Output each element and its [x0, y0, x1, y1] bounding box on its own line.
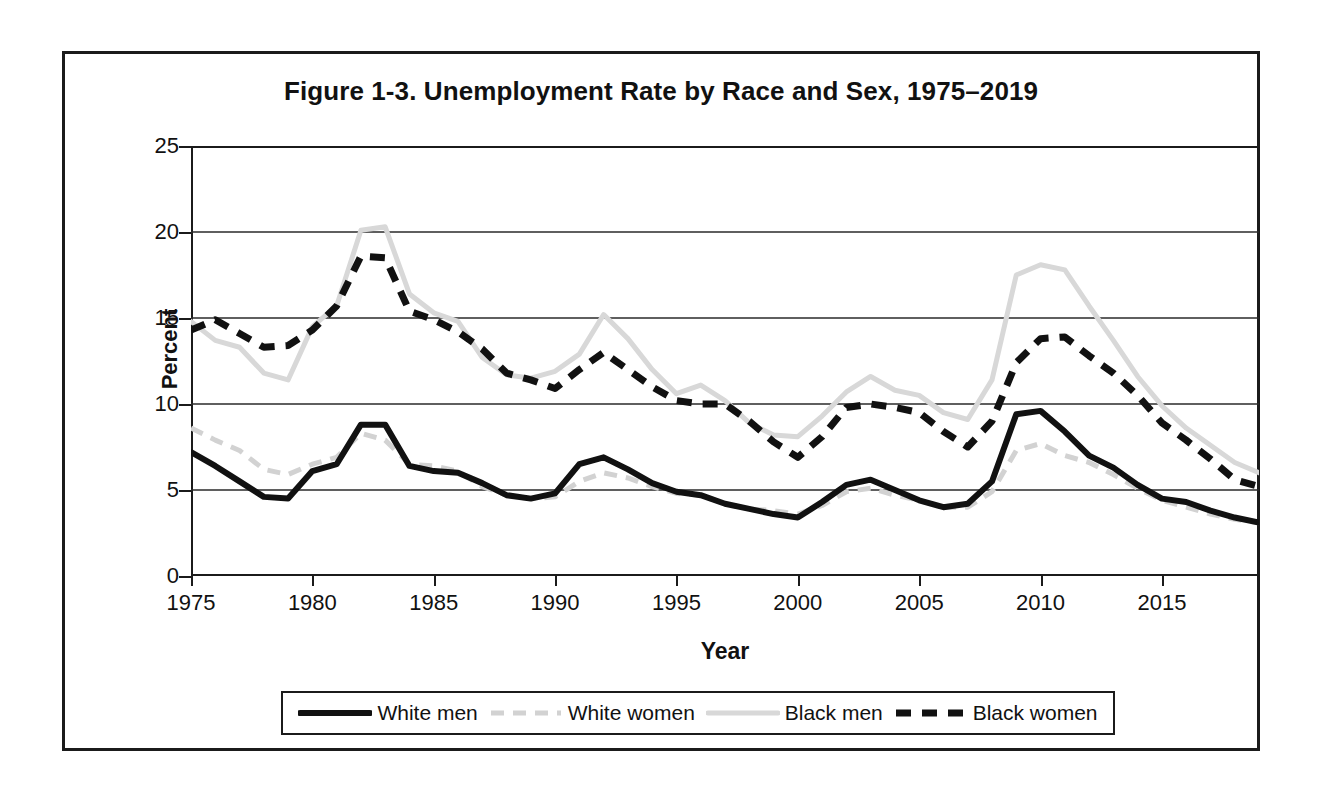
x-tick-label: 1995	[631, 590, 721, 616]
x-tick-mark	[434, 576, 436, 586]
x-tick-mark	[1162, 576, 1164, 586]
series-line-white-men	[191, 411, 1259, 523]
solid-thick-black-line-icon	[298, 705, 372, 721]
solid-light-gray-line-icon	[706, 705, 780, 721]
y-tick-mark	[179, 146, 191, 148]
x-tick-label: 2000	[753, 590, 843, 616]
x-axis-title: Year	[191, 638, 1259, 665]
plot-wrapper: 0510152025 19751980198519901995200020052…	[191, 146, 1259, 576]
x-tick-mark	[919, 576, 921, 586]
y-tick-mark	[179, 232, 191, 234]
y-tick-label: 20	[123, 219, 179, 245]
x-tick-mark	[676, 576, 678, 586]
y-tick-label: 25	[123, 133, 179, 159]
gridlines	[191, 232, 1259, 490]
x-tick-mark	[555, 576, 557, 586]
legend-item: White men	[298, 701, 477, 725]
legend-item-label: White men	[377, 701, 477, 725]
x-tick-mark	[191, 576, 193, 586]
dashed-bold-black-line-icon	[894, 705, 968, 721]
y-tick-mark	[179, 576, 191, 578]
figure-page: Figure 1-3. Unemployment Rate by Race an…	[0, 0, 1322, 799]
legend-item: Black women	[894, 701, 1098, 725]
legend-item: White women	[489, 701, 695, 725]
figure-frame: Figure 1-3. Unemployment Rate by Race an…	[62, 51, 1260, 751]
x-tick-label: 2010	[996, 590, 1086, 616]
x-tick-mark	[312, 576, 314, 586]
legend-item-label: Black women	[973, 701, 1098, 725]
y-tick-mark	[179, 490, 191, 492]
legend-item-label: Black men	[785, 701, 883, 725]
legend-item-label: White women	[568, 701, 695, 725]
x-tick-label: 1980	[267, 590, 357, 616]
x-tick-mark	[798, 576, 800, 586]
x-tick-label: 2005	[874, 590, 964, 616]
x-tick-label: 1990	[510, 590, 600, 616]
y-tick-label: 5	[123, 477, 179, 503]
series-paths	[191, 227, 1259, 523]
series-line-black-women	[191, 256, 1259, 486]
x-tick-label: 2015	[1117, 590, 1207, 616]
dashed-light-gray-line-icon	[489, 705, 563, 721]
chart-svg	[191, 146, 1259, 576]
y-axis-title: Percent	[157, 274, 183, 424]
page-title: Figure 1-3. Unemployment Rate by Race an…	[65, 76, 1257, 107]
x-tick-label: 1985	[389, 590, 479, 616]
legend-item: Black men	[706, 701, 883, 725]
y-tick-label: 0	[123, 563, 179, 589]
chart-legend: White menWhite womenBlack menBlack women	[281, 691, 1115, 735]
x-tick-mark	[1041, 576, 1043, 586]
x-tick-label: 1975	[146, 590, 236, 616]
